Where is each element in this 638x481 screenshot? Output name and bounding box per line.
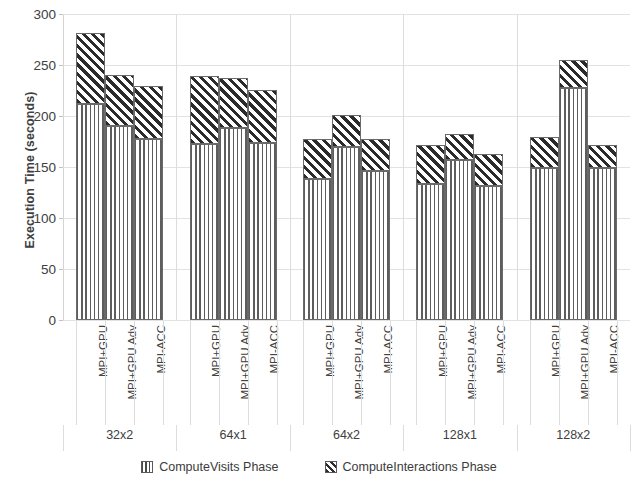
x-tick-separator bbox=[361, 321, 362, 425]
x-tick-separator bbox=[303, 321, 304, 425]
bar-segment-compute-interactions bbox=[134, 86, 163, 139]
bar-segment-compute-visits bbox=[248, 143, 277, 320]
x-tick-separator bbox=[445, 321, 446, 425]
bar-segment-compute-interactions bbox=[474, 154, 503, 187]
bar-segment-compute-interactions bbox=[248, 90, 277, 143]
bar-segment-compute-interactions bbox=[588, 145, 617, 168]
x-tick-separator bbox=[503, 321, 504, 425]
bar-segment-compute-visits bbox=[559, 88, 588, 320]
legend-label: ComputeVisits Phase bbox=[159, 460, 278, 474]
group-label-separator bbox=[176, 425, 177, 451]
chart-root: Execution Time (seconds) 050100150200250… bbox=[0, 0, 638, 481]
legend-label: ComputeInteractions Phase bbox=[343, 460, 497, 474]
bar-segment-compute-interactions bbox=[76, 33, 105, 103]
x-tick-separator bbox=[134, 321, 135, 425]
x-axis-group-label: 32x2 bbox=[63, 428, 176, 442]
legend-item: ComputeVisits Phase bbox=[141, 460, 278, 474]
y-tick-mark bbox=[59, 167, 63, 168]
bar-segment-compute-visits bbox=[332, 147, 361, 320]
x-axis-group-label: 64x2 bbox=[290, 428, 403, 442]
bar-segment-compute-visits bbox=[474, 186, 503, 320]
y-tick-label: 300 bbox=[33, 7, 56, 22]
x-axis-group-label: 128x2 bbox=[517, 428, 630, 442]
bar-segment-compute-interactions bbox=[361, 139, 390, 171]
y-tick-label: 50 bbox=[41, 262, 56, 277]
x-tick-separator bbox=[190, 321, 191, 425]
bar-segment-compute-visits bbox=[190, 144, 219, 320]
bar-segment-compute-interactions bbox=[190, 76, 219, 143]
bar-segment-compute-visits bbox=[219, 128, 248, 320]
gridline bbox=[63, 14, 630, 15]
legend-item: ComputeInteractions Phase bbox=[325, 460, 497, 474]
plot-area: 050100150200250300 bbox=[63, 14, 630, 320]
bar-segment-compute-visits bbox=[416, 184, 445, 320]
x-tick-separator bbox=[559, 321, 560, 425]
vertical-stripe-swatch bbox=[141, 461, 153, 473]
group-label-separator bbox=[290, 425, 291, 451]
bar-segment-compute-visits bbox=[361, 171, 390, 320]
group-label-separator bbox=[403, 425, 404, 451]
diagonal-stripe-swatch bbox=[325, 461, 337, 473]
group-label-separator bbox=[517, 425, 518, 451]
y-tick-mark bbox=[59, 14, 63, 15]
group-separator bbox=[290, 14, 291, 320]
y-tick-label: 0 bbox=[48, 313, 56, 328]
bar-segment-compute-interactions bbox=[105, 75, 134, 126]
y-tick-label: 200 bbox=[33, 109, 56, 124]
x-tick-separator bbox=[416, 321, 417, 425]
bar-segment-compute-interactions bbox=[530, 137, 559, 168]
bar-segment-compute-visits bbox=[303, 179, 332, 320]
bar-segment-compute-interactions bbox=[219, 78, 248, 128]
x-tick-separator bbox=[530, 321, 531, 425]
bar-segment-compute-interactions bbox=[303, 139, 332, 179]
x-tick-separator bbox=[617, 321, 618, 425]
group-separator bbox=[517, 14, 518, 320]
y-tick-label: 250 bbox=[33, 58, 56, 73]
y-tick-label: 100 bbox=[33, 211, 56, 226]
y-tick-mark bbox=[59, 218, 63, 219]
y-tick-mark bbox=[59, 269, 63, 270]
y-tick-mark bbox=[59, 116, 63, 117]
x-axis-group-label: 64x1 bbox=[176, 428, 289, 442]
bar-segment-compute-interactions bbox=[559, 60, 588, 89]
bar-segment-compute-visits bbox=[588, 168, 617, 320]
bar-segment-compute-visits bbox=[530, 168, 559, 320]
x-tick-separator bbox=[105, 321, 106, 425]
x-tick-separator bbox=[277, 321, 278, 425]
x-axis-group-labels: 32x264x164x2128x1128x2 bbox=[63, 425, 630, 451]
bar-segment-compute-visits bbox=[76, 104, 105, 320]
group-label-separator bbox=[63, 425, 64, 451]
group-separator bbox=[403, 14, 404, 320]
x-tick-separator bbox=[219, 321, 220, 425]
x-axis-group-label: 128x1 bbox=[403, 428, 516, 442]
bar-segment-compute-interactions bbox=[332, 115, 361, 147]
bar-segment-compute-interactions bbox=[416, 145, 445, 185]
group-separator bbox=[176, 14, 177, 320]
group-label-separator bbox=[630, 425, 631, 451]
x-axis-category-labels: MPI+GPUMPI+GPU AdvMPI-ACCMPI+GPUMPI+GPU … bbox=[63, 321, 630, 425]
y-tick-mark bbox=[59, 65, 63, 66]
chart-legend: ComputeVisits PhaseComputeInteractions P… bbox=[0, 456, 638, 478]
x-tick-separator bbox=[474, 321, 475, 425]
bar-segment-compute-visits bbox=[105, 126, 134, 320]
y-tick-label: 150 bbox=[33, 160, 56, 175]
x-tick-separator bbox=[76, 321, 77, 425]
x-tick-separator bbox=[332, 321, 333, 425]
x-tick-separator bbox=[163, 321, 164, 425]
bar-segment-compute-interactions bbox=[445, 134, 474, 160]
x-tick-separator bbox=[390, 321, 391, 425]
gridline bbox=[63, 65, 630, 66]
x-tick-separator bbox=[248, 321, 249, 425]
bar-segment-compute-visits bbox=[134, 139, 163, 320]
x-tick-separator bbox=[588, 321, 589, 425]
bar-segment-compute-visits bbox=[445, 160, 474, 320]
